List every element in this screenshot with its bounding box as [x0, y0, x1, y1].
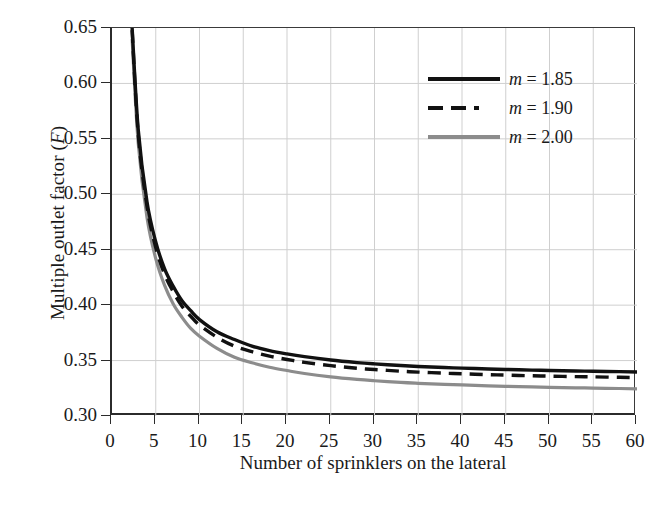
x-tick-mark — [548, 415, 549, 424]
y-tick-mark — [101, 415, 110, 416]
legend-label: m = 1.90 — [509, 99, 573, 117]
legend-label-symbol: m — [509, 69, 522, 89]
y-tick-mark — [101, 304, 110, 305]
y-tick-label: 0.40 — [31, 294, 97, 313]
y-tick-label: 0.60 — [31, 72, 97, 91]
y-tick-mark — [101, 27, 110, 28]
x-tick-mark — [591, 415, 592, 424]
x-tick-mark — [373, 415, 374, 424]
x-tick-label: 60 — [605, 431, 660, 450]
y-tick-label: 0.35 — [31, 350, 97, 369]
y-tick-mark — [101, 360, 110, 361]
y-tick-mark — [101, 249, 110, 250]
x-tick-mark — [285, 415, 286, 424]
x-tick-mark — [110, 415, 111, 424]
y-tick-label: 0.45 — [31, 239, 97, 258]
x-tick-mark — [198, 415, 199, 424]
legend-swatch-dashed-black — [428, 102, 500, 114]
x-tick-mark — [504, 415, 505, 424]
legend-label: m = 1.85 — [509, 70, 573, 88]
y-tick-label: 0.65 — [31, 17, 97, 36]
legend-item: m = 2.00 — [428, 122, 628, 151]
x-tick-mark — [460, 415, 461, 424]
x-tick-mark — [241, 415, 242, 424]
y-tick-mark — [101, 82, 110, 83]
figure: Multiple outlet factor (F) 0.300.350.400… — [0, 0, 660, 508]
legend-label-value: = 1.90 — [522, 98, 573, 118]
y-tick-mark — [101, 193, 110, 194]
y-tick-label: 0.55 — [31, 128, 97, 147]
x-axis-title: Number of sprinklers on the lateral — [110, 452, 636, 474]
legend-label-symbol: m — [509, 127, 522, 147]
y-tick-label: 0.50 — [31, 183, 97, 202]
x-tick-mark — [154, 415, 155, 424]
x-tick-mark — [329, 415, 330, 424]
legend-swatch-solid-gray — [428, 131, 500, 143]
y-tick-label: 0.30 — [31, 405, 97, 424]
y-tick-mark — [101, 138, 110, 139]
legend-label-value: = 1.85 — [522, 69, 573, 89]
legend-label: m = 2.00 — [509, 128, 573, 146]
legend-item: m = 1.85 — [428, 64, 628, 93]
legend-label-symbol: m — [509, 98, 522, 118]
legend-swatch-solid-black — [428, 73, 500, 85]
x-tick-mark — [635, 415, 636, 424]
legend-label-value: = 2.00 — [522, 127, 573, 147]
x-tick-mark — [416, 415, 417, 424]
legend: m = 1.85m = 1.90m = 2.00 — [428, 64, 628, 151]
legend-item: m = 1.90 — [428, 93, 628, 122]
figure-caption — [14, 486, 654, 506]
